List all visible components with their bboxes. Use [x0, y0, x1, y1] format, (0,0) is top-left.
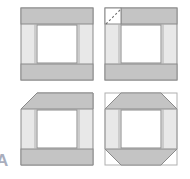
panel-2-corner-cut-region — [105, 8, 121, 24]
panel-3-group — [21, 93, 93, 165]
panel-4-group — [105, 93, 177, 165]
figure-container: A — [0, 0, 190, 179]
panel-2-center-opening — [121, 25, 161, 63]
panel-3-bottom-band — [21, 149, 93, 165]
panel-1-center-opening — [37, 25, 77, 63]
panel-1-bottom-band — [21, 64, 93, 80]
panel-3-center-opening — [37, 110, 77, 148]
panel-3-top-band — [21, 93, 93, 109]
panel-4-bottom-band — [105, 149, 177, 165]
panel-2-group — [105, 8, 177, 80]
panel-4-center-opening — [121, 110, 161, 148]
figure-caption-label-a: A — [0, 151, 16, 171]
panel-4-top-band — [105, 93, 177, 109]
panel-1-group — [21, 8, 93, 80]
panel-1-top-band — [21, 8, 93, 24]
panel-2-top-band — [121, 8, 177, 24]
panel-2-bottom-band — [105, 64, 177, 80]
frame-diagram-svg — [0, 0, 190, 179]
